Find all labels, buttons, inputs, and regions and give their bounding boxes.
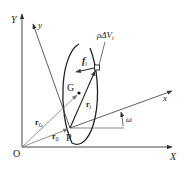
r-i-vector [70,71,95,128]
body-x-axis [70,91,172,128]
r-0-vector [22,129,68,147]
mass-element-group: ρΔVi [95,30,115,70]
mass-element-label: ρΔVi [96,30,114,41]
mass-element-subscript: i [112,35,114,41]
reference-point-label: P [66,132,72,143]
global-y-label: Y [11,14,18,25]
r-0-subscript: 0 [56,136,59,142]
r-i-vector-group: ri [70,71,95,128]
origin-label: O [13,148,20,159]
global-axes: X Y O [11,14,177,162]
force-f-i-arrow [76,68,94,72]
r-G-subscript: G [39,122,44,128]
mass-element-square [95,65,100,70]
r-i-label: ri [86,100,92,110]
omega-label: ω [126,115,132,124]
mass-element-leader-line [99,42,105,65]
r-G-label: rG [35,118,44,128]
center-of-mass-label: G [67,82,74,93]
points: G P [66,82,81,143]
r-i-subscript: i [90,104,92,110]
center-of-mass-point [77,91,80,94]
body-x-label: x [162,93,167,103]
body-y-label: y [37,20,42,30]
force-f-i-label: fi [82,55,87,67]
force-f-i-group: fi [76,55,94,72]
omega-arc-arrow [121,112,123,126]
force-f-i-subscript: i [85,61,87,67]
global-x-label: X [169,151,177,162]
angle-omega: ω [70,112,132,128]
rigid-body-kinematics-diagram: X Y O y x ω rG r0 G P ri [0,0,186,169]
